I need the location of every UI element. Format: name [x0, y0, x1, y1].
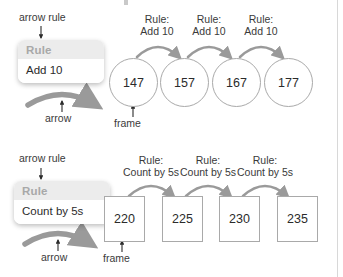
rule-card-header-row1: Rule	[18, 40, 104, 59]
frame-value: 177	[278, 76, 299, 90]
rule-arc-row1-1	[137, 47, 179, 57]
rule-card-body-row1: Add 10	[18, 59, 104, 83]
frame-value: 220	[114, 212, 135, 226]
demo-arrow-row2	[25, 234, 91, 245]
demo-arrow-row1	[28, 95, 96, 106]
rule-arc-label-line2: Add 10	[184, 26, 234, 38]
rule-arc-label-line1: Rule:	[231, 155, 299, 167]
crop-mark	[124, 0, 128, 5]
rule-arc-label-line1: Rule:	[132, 14, 182, 26]
frame-square-row2-3: 230	[219, 196, 260, 242]
callout-label-arrow-rule-row1: arrow rule	[19, 12, 66, 24]
rule-arc-row2-1	[129, 186, 173, 196]
rule-arc-label-line2: Count by 5s	[231, 167, 299, 179]
rule-arc-label-row1-2: Rule: Add 10	[184, 14, 234, 37]
rule-arc-label-line1: Rule:	[236, 14, 286, 26]
frame-value: 235	[287, 212, 308, 226]
frame-square-row2-4: 235	[277, 196, 318, 242]
rule-arc-row2-2	[186, 186, 230, 196]
rule-arc-row2-3	[243, 186, 287, 196]
callout-label-arrow-row1: arrow	[45, 113, 71, 125]
rule-arc-row1-3	[240, 47, 282, 57]
rule-arc-label-row1-1: Rule: Add 10	[132, 14, 182, 37]
frame-value: 225	[172, 212, 193, 226]
rule-arc-label-line2: Add 10	[236, 26, 286, 38]
rule-arc-label-line1: Rule:	[184, 14, 234, 26]
rule-card-header-row2: Rule	[14, 181, 110, 200]
frame-circle-row1-3: 167	[212, 58, 261, 107]
frames-and-arrows-diagram: arrow rule Rule Add 10 arrow Rule: Add 1…	[0, 0, 343, 277]
rule-arc-label-row1-3: Rule: Add 10	[236, 14, 286, 37]
frame-square-row2-2: 225	[162, 196, 203, 242]
rule-card-body-row2: Count by 5s	[14, 200, 110, 224]
callout-label-arrow-rule-row2: arrow rule	[19, 153, 66, 165]
rule-arc-label-row2-3: Rule: Count by 5s	[231, 155, 299, 178]
frame-circle-row1-1: 147	[109, 58, 158, 107]
callout-label-frame-row2: frame	[103, 253, 130, 265]
frame-value: 230	[229, 212, 250, 226]
frame-circle-row1-2: 157	[160, 58, 209, 107]
rule-card-row2: Rule Count by 5s	[14, 181, 110, 224]
rule-arc-label-line2: Add 10	[132, 26, 182, 38]
frame-value: 167	[226, 76, 247, 90]
rule-arc-row1-2	[188, 47, 230, 57]
frame-value: 157	[174, 76, 195, 90]
callout-label-frame-row1: frame	[114, 118, 141, 130]
frame-value: 147	[123, 76, 144, 90]
frame-circle-row1-4: 177	[264, 58, 313, 107]
frame-square-row2-1: 220	[104, 196, 145, 242]
page-right-divider	[337, 0, 338, 277]
callout-label-arrow-row2: arrow	[41, 252, 67, 264]
rule-card-row1: Rule Add 10	[18, 40, 104, 83]
